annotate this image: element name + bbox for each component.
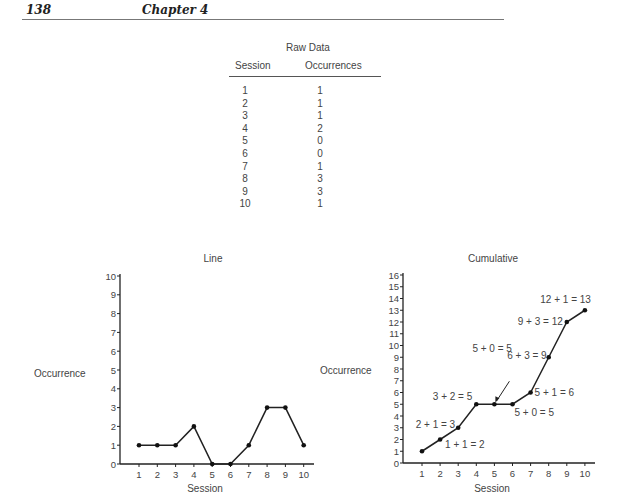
y-tick-label: 2 [394, 434, 399, 445]
y-tick-label: 9 [111, 289, 116, 300]
data-point [528, 390, 533, 395]
annotation-label: 9 + 3 = 12 [518, 316, 563, 327]
data-line [139, 408, 304, 464]
y-tick-label: 10 [105, 271, 116, 282]
y-tick-label: 4 [111, 383, 116, 394]
chart-title: Cumulative [468, 253, 518, 264]
y-axis-label: Occurrence [320, 365, 372, 376]
x-tick-label: 10 [580, 468, 591, 479]
chart-title: Line [204, 253, 223, 264]
annotation-label: 12 + 1 = 13 [540, 294, 591, 305]
x-tick-label: 5 [210, 469, 215, 480]
x-tick-label: 9 [564, 468, 569, 479]
data-point [474, 402, 479, 407]
data-point [546, 355, 551, 360]
data-point [247, 443, 252, 448]
data-point [283, 405, 288, 410]
data-point [192, 424, 197, 429]
y-tick-label: 9 [394, 352, 399, 363]
data-point [420, 449, 425, 454]
x-tick-label: 1 [419, 468, 424, 479]
y-tick-label: 6 [111, 346, 116, 357]
x-axis-label: Session [187, 483, 223, 494]
y-tick-label: 8 [394, 364, 399, 375]
annotation-label: 5 + 0 = 5 [515, 407, 555, 418]
y-tick-label: 1 [394, 446, 399, 457]
y-tick-label: 0 [394, 458, 399, 469]
x-tick-label: 6 [228, 469, 233, 480]
data-point [510, 402, 515, 407]
x-tick-label: 1 [136, 469, 141, 480]
annotation-label: 2 + 1 = 3 [416, 419, 456, 430]
y-tick-label: 5 [394, 399, 399, 410]
annotation-label: 6 + 3 = 9 [507, 350, 547, 361]
x-tick-label: 5 [492, 468, 497, 479]
x-tick-label: 9 [283, 469, 288, 480]
y-tick-label: 5 [111, 365, 116, 376]
data-point [228, 462, 233, 467]
data-point [210, 462, 215, 467]
x-axis-label: Session [474, 483, 510, 494]
x-tick-label: 8 [264, 469, 269, 480]
x-tick-label: 10 [298, 469, 309, 480]
y-tick-label: 12 [388, 317, 399, 328]
x-tick-label: 7 [528, 468, 533, 479]
data-point [583, 308, 588, 313]
y-tick-label: 3 [111, 402, 116, 413]
data-point [155, 443, 160, 448]
x-tick-label: 3 [173, 469, 178, 480]
y-tick-label: 6 [394, 387, 399, 398]
line-chart: LineOccurrenceSession0123456789101234567… [0, 0, 624, 496]
x-tick-label: 7 [246, 469, 251, 480]
y-tick-label: 8 [111, 308, 116, 319]
y-tick-label: 1 [111, 440, 116, 451]
x-tick-label: 3 [456, 468, 461, 479]
annotation-label: 3 + 2 = 5 [433, 391, 473, 402]
y-tick-label: 16 [388, 270, 399, 281]
y-tick-label: 11 [389, 328, 399, 339]
x-tick-label: 2 [437, 468, 442, 479]
data-point [301, 443, 306, 448]
y-tick-label: 15 [388, 281, 399, 292]
annotation-label: 5 + 1 = 6 [535, 387, 575, 398]
y-tick-label: 4 [394, 411, 399, 422]
data-point [173, 443, 178, 448]
x-tick-label: 4 [474, 468, 479, 479]
data-point [265, 405, 270, 410]
y-tick-label: 3 [394, 422, 399, 433]
x-tick-label: 6 [510, 468, 515, 479]
data-point [456, 425, 461, 430]
x-tick-label: 4 [191, 469, 196, 480]
data-line [422, 310, 585, 451]
y-tick-label: 10 [388, 340, 399, 351]
y-tick-label: 14 [388, 293, 399, 304]
x-tick-label: 8 [546, 468, 551, 479]
data-point [137, 443, 142, 448]
y-tick-label: 7 [394, 375, 399, 386]
y-tick-label: 7 [111, 327, 116, 338]
data-point [492, 402, 497, 407]
y-tick-label: 2 [111, 421, 116, 432]
annotation-label: 1 + 1 = 2 [445, 439, 485, 450]
y-tick-label: 13 [388, 305, 399, 316]
data-point [438, 437, 443, 442]
y-axis-label: Occurrence [34, 368, 86, 379]
y-tick-label: 0 [111, 459, 116, 470]
x-tick-label: 2 [155, 469, 160, 480]
data-point [565, 320, 570, 325]
